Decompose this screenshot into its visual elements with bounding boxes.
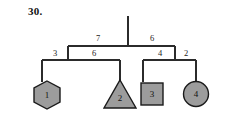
branch-label-taxon-2: 6 [92, 48, 96, 58]
branch-label-root-right: 6 [150, 33, 154, 43]
taxon-3-label: 3 [150, 89, 155, 99]
taxon-node-2[interactable]: 2 [104, 80, 136, 108]
taxon-node-1[interactable]: 1 [34, 81, 60, 109]
taxon-node-3[interactable]: 3 [141, 83, 163, 105]
branch-label-taxon-3: 4 [158, 48, 163, 58]
phylogenetic-tree-diagram: 7 6 3 6 4 2 1 2 3 4 [0, 0, 241, 114]
taxon-node-4[interactable]: 4 [184, 82, 209, 107]
taxon-1-label: 1 [45, 90, 50, 100]
branch-label-root-left: 7 [96, 33, 100, 43]
branch-label-taxon-1: 3 [53, 48, 57, 58]
figure-container: 30. 7 6 3 6 4 2 1 2 [0, 0, 241, 114]
taxon-2-label: 2 [118, 93, 123, 103]
taxon-4-label: 4 [194, 89, 199, 99]
branch-label-taxon-4: 2 [184, 48, 188, 58]
